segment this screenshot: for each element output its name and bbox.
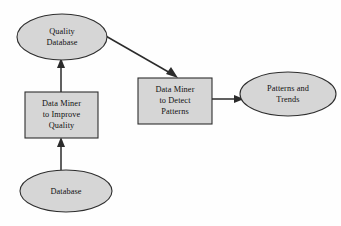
diagram-canvas: Quality Database Data Miner to Improve Q… <box>0 0 341 226</box>
edge-improve-quality-to-quality-database <box>57 58 65 92</box>
data-miner-improve-quality-box[interactable] <box>25 92 98 138</box>
node-database[interactable]: Database <box>20 170 112 212</box>
patterns-and-trends-ellipse[interactable] <box>240 72 336 116</box>
flowchart-svg: Quality Database Data Miner to Improve Q… <box>0 0 341 226</box>
node-data-miner-detect-patterns[interactable]: Data Miner to Detect Patterns <box>138 78 212 124</box>
edge-quality-database-to-detect-patterns <box>104 35 178 78</box>
node-quality-database[interactable]: Quality Database <box>17 14 107 60</box>
node-patterns-and-trends[interactable]: Patterns and Trends <box>240 72 336 116</box>
edge-line-diagonal <box>104 35 172 74</box>
arrowhead-diagonal-to-detect-patterns <box>166 67 178 78</box>
edge-detect-patterns-to-patterns-trends <box>212 95 244 103</box>
database-ellipse[interactable] <box>20 170 112 212</box>
node-data-miner-improve-quality[interactable]: Data Miner to Improve Quality <box>25 92 98 138</box>
edge-database-to-improve-quality <box>57 137 65 170</box>
quality-database-ellipse[interactable] <box>17 14 107 60</box>
data-miner-detect-patterns-box[interactable] <box>138 78 212 124</box>
